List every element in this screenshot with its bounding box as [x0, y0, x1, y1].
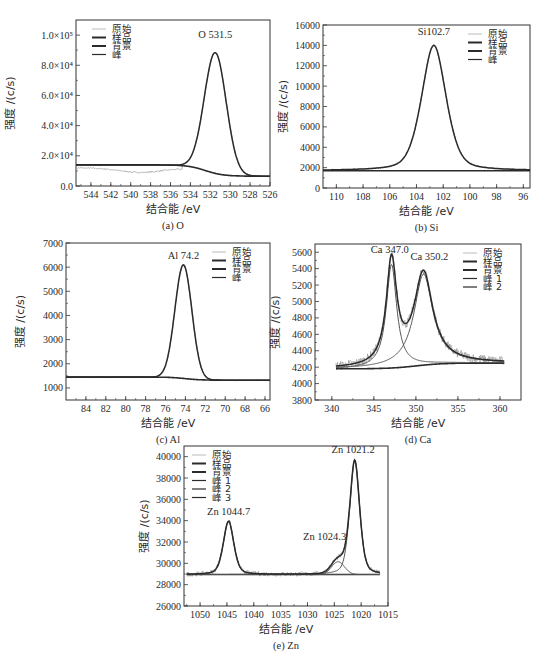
x-tick-label: 72	[200, 403, 210, 414]
peak-annotation: Si102.7	[418, 26, 450, 37]
component-peak-line	[187, 521, 380, 574]
chart-e: 1050104510401035103010251020101526000280…	[137, 444, 398, 652]
legend: 原始样品背景峰	[212, 246, 252, 283]
y-tick-label: 4000	[300, 142, 320, 153]
x-tick-label: 345	[366, 403, 381, 414]
y-tick-label: 6000	[300, 121, 320, 132]
x-tick-label: 528	[243, 189, 258, 200]
x-tick-label: 84	[81, 403, 91, 414]
y-axis-label: 强度 /(c/s)	[268, 295, 282, 348]
y-tick-label: 40000	[156, 451, 181, 462]
x-axis-label: 结合能 /eV	[146, 202, 201, 216]
subfigure-caption: (a) O	[162, 220, 184, 232]
x-tick-label: 534	[183, 189, 198, 200]
fitted-envelope-line	[336, 254, 504, 366]
y-tick-label: 28000	[156, 579, 181, 590]
legend-label: 峰	[112, 49, 122, 60]
y-tick-label: 34000	[156, 515, 181, 526]
y-tick-label: 1000	[43, 382, 63, 393]
y-tick-label: 0.0	[61, 181, 74, 192]
x-tick-label: 96	[518, 191, 528, 202]
x-tick-label: 106	[382, 191, 397, 202]
x-tick-label: 110	[329, 191, 344, 202]
chart-a: 5445425405385365345325305285260.02.0×10⁴…	[3, 20, 278, 232]
y-tick-label: 16000	[295, 20, 320, 31]
x-tick-label: 102	[436, 191, 451, 202]
x-tick-label: 70	[220, 403, 230, 414]
x-tick-label: 540	[123, 189, 138, 200]
x-tick-label: 526	[263, 189, 278, 200]
y-axis-label: 强度 /(c/s)	[276, 80, 290, 133]
y-tick-label: 2000	[43, 358, 63, 369]
fitted-envelope-line	[76, 53, 270, 177]
plot-area	[336, 251, 504, 370]
x-tick-label: 1045	[217, 609, 237, 620]
x-tick-label: 544	[83, 189, 98, 200]
legend: 原始样品背景峰	[92, 23, 132, 60]
y-axis-label: 强度 /(c/s)	[13, 295, 27, 348]
y-tick-label: 3000	[43, 334, 63, 345]
y-tick-label: 3800	[292, 395, 312, 406]
legend-label: 峰	[232, 272, 242, 283]
y-tick-label: 5000	[43, 286, 63, 297]
plot-frame	[76, 20, 270, 186]
y-tick-label: 8000	[300, 101, 320, 112]
peak-annotation: Zn 1044.7	[207, 506, 250, 517]
y-tick-label: 4600	[292, 329, 312, 340]
raw-data-line	[323, 45, 530, 170]
legend: 原始样品背景峰 1峰 2	[463, 247, 503, 292]
x-tick-label: 1020	[351, 609, 371, 620]
y-tick-label: 0	[315, 183, 320, 194]
y-axis-label: 强度 /(c/s)	[3, 76, 17, 129]
component-peak-line	[336, 274, 504, 367]
y-tick-label: 8.0×10⁴	[41, 60, 73, 71]
y-tick-label: 4200	[292, 362, 312, 373]
legend-label: 峰	[488, 54, 498, 65]
x-tick-label: 1040	[244, 609, 264, 620]
peak-annotation: O 531.5	[198, 29, 232, 40]
y-tick-label: 5600	[292, 247, 312, 258]
y-tick-label: 10000	[295, 81, 320, 92]
y-tick-label: 12000	[295, 60, 320, 71]
x-tick-label: 104	[409, 191, 424, 202]
x-axis-label: 结合能 /eV	[391, 416, 446, 430]
x-tick-label: 1035	[271, 609, 291, 620]
x-axis-label: 结合能 /eV	[259, 622, 314, 636]
legend-label: 峰 3	[212, 492, 231, 503]
x-axis-label: 结合能 /eV	[399, 204, 454, 218]
y-tick-label: 6.0×10⁴	[41, 90, 73, 101]
y-tick-label: 5200	[292, 280, 312, 291]
x-tick-label: 542	[103, 189, 118, 200]
y-tick-label: 4800	[292, 312, 312, 323]
x-tick-label: 536	[163, 189, 178, 200]
x-tick-label: 1015	[378, 609, 398, 620]
x-tick-label: 360	[492, 403, 507, 414]
xps-figure: 5445425405385365345325305285260.02.0×10⁴…	[0, 0, 541, 662]
y-axis-label: 强度 /(c/s)	[137, 499, 151, 552]
y-tick-label: 36000	[156, 494, 181, 505]
fitted-envelope-line	[323, 45, 530, 170]
legend: 原始样品背景峰 1峰 2峰 3	[192, 449, 232, 503]
peak-annotation: Al 74.2	[168, 250, 200, 261]
x-tick-label: 68	[240, 403, 250, 414]
x-tick-label: 532	[203, 189, 218, 200]
y-tick-label: 2000	[300, 162, 320, 173]
subfigure-caption: (b) Si	[415, 222, 439, 234]
raw-data-line	[76, 53, 270, 177]
legend: 原始样品背景峰	[468, 28, 508, 65]
x-axis-label: 结合能 /eV	[141, 416, 196, 430]
x-tick-label: 530	[223, 189, 238, 200]
x-tick-label: 108	[356, 191, 371, 202]
y-tick-label: 32000	[156, 537, 181, 548]
x-tick-label: 350	[408, 403, 423, 414]
chart-d: 3403453503553603800400042004400460048005…	[268, 244, 521, 446]
x-tick-label: 355	[450, 403, 465, 414]
y-tick-label: 4400	[292, 345, 312, 356]
x-tick-label: 82	[101, 403, 111, 414]
plot-area	[76, 53, 270, 177]
x-tick-label: 538	[143, 189, 158, 200]
raw-data-line	[336, 251, 504, 370]
y-tick-label: 1.0×10⁵	[41, 30, 73, 41]
y-tick-label: 2.0×10⁴	[41, 150, 73, 161]
x-tick-label: 100	[462, 191, 477, 202]
